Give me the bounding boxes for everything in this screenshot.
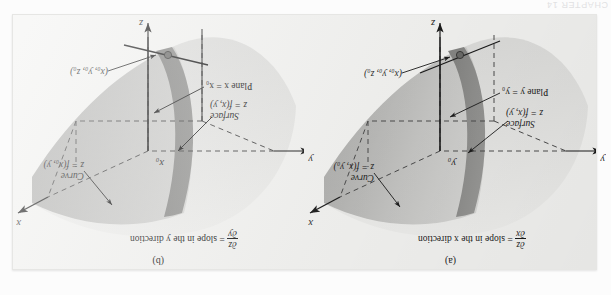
equation-b-text: = slope in the y direction	[130, 234, 225, 244]
equation-b: ∂z ∂y = slope in the y direction	[130, 228, 238, 249]
scanned-page: CHAPTER 14	[0, 0, 611, 295]
caption-a: (a)	[445, 256, 456, 267]
equation-a-text: = slope in the x direction	[418, 234, 513, 244]
point-marker	[164, 51, 171, 58]
axis-label-z: z	[139, 17, 143, 29]
annotation-plane-line1: Plane x = x₀	[206, 81, 252, 91]
annotation-plane-line1: Plane y = y₀	[502, 87, 548, 97]
equation-a: ∂z ∂x = slope in the x direction	[418, 228, 526, 249]
tick-label-y0: y₀	[448, 157, 456, 169]
partial-derivative-fraction: ∂z ∂x	[515, 228, 526, 249]
annotation-point: (x₀, y₀, z₀)	[322, 68, 402, 79]
tick-label-x0: x₀	[156, 157, 164, 169]
figure-panel: y x z y₀ Surface z = f(x, y) Plane y = y…	[12, 14, 597, 270]
annotation-curve-line1: Curve	[351, 173, 374, 183]
annotation-plane: Plane y = y₀	[502, 86, 588, 97]
annotation-surface-line2: z = f(x, y)	[506, 108, 543, 118]
axis-label-y: y	[308, 153, 313, 165]
axis-label-y: y	[600, 153, 605, 165]
annotation-surface-line2: z = f(x, y)	[210, 100, 247, 110]
annotation-point-line1: (x₀, y₀, z₀)	[70, 67, 108, 77]
annotation-surface: Surface z = f(x, y)	[506, 108, 590, 129]
partial-derivative-fraction: ∂z ∂y	[227, 228, 238, 249]
axis-label-x: x	[308, 217, 313, 229]
caption-b: (b)	[152, 256, 164, 267]
diagram-panel-a: y x z y₀ Surface z = f(x, y) Plane y = y…	[305, 15, 596, 269]
annotation-curve-line2: z = f(x, y₀)	[334, 162, 374, 172]
annotation-surface: Surface z = f(x, y)	[210, 100, 300, 121]
annotation-plane: Plane x = x₀	[206, 80, 300, 91]
fraction-numerator: ∂z	[227, 238, 238, 249]
page-header-bleedthrough: CHAPTER 14	[492, 0, 608, 10]
axis-label-x: x	[16, 217, 21, 229]
annotation-curve: Curve z = f(x₀, y)	[14, 160, 84, 181]
annotation-curve-line1: Curve	[61, 171, 84, 181]
diagram-panel-b: y x z x₀ Surface z = f(x, y) Plane x = x…	[13, 15, 304, 269]
annotation-surface-line1: Surface	[506, 119, 535, 129]
point-marker	[456, 51, 463, 58]
fraction-denominator: ∂x	[515, 228, 526, 238]
fraction-denominator: ∂y	[227, 228, 238, 238]
annotation-curve-line2: z = f(x₀, y)	[44, 160, 84, 170]
axis-label-z: z	[431, 17, 435, 29]
figure-rotated-group: y x z y₀ Surface z = f(x, y) Plane y = y…	[13, 15, 596, 269]
annotation-point-line1: (x₀, y₀, z₀)	[364, 69, 402, 79]
annotation-curve: Curve z = f(x, y₀)	[304, 162, 374, 183]
fraction-numerator: ∂z	[515, 238, 526, 249]
annotation-surface-line1: Surface	[210, 111, 239, 121]
annotation-point: (x₀, y₀, z₀)	[28, 66, 108, 77]
